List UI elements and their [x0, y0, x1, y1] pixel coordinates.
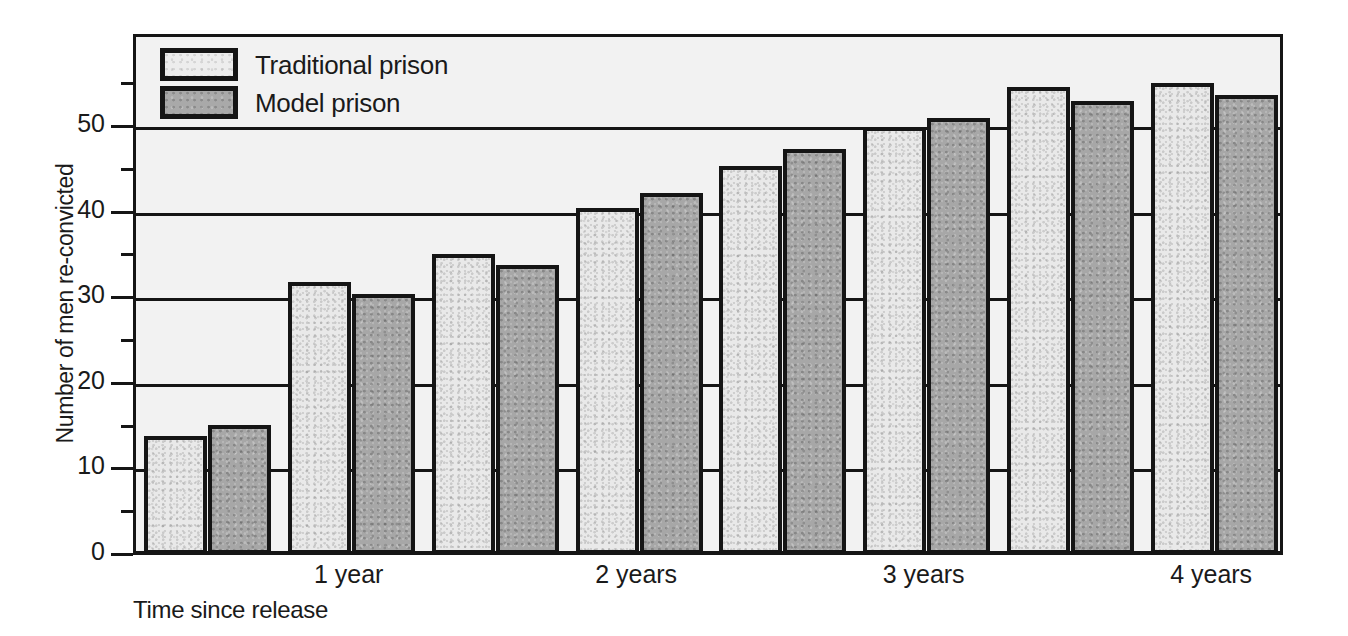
x-axis-tick-labels: 1 year2 years3 years4 years	[133, 558, 1283, 592]
bar-traditional-group-2	[288, 282, 351, 554]
y-tick-mark	[111, 296, 133, 299]
y-axis-tick-label-0: 0	[91, 536, 105, 566]
legend-item-model-prison: Model prison	[160, 86, 448, 119]
bar-chart-figure: Number of men re-convicted 01020304050 T…	[0, 0, 1348, 636]
bar-model-group-4	[640, 193, 703, 554]
y-tick-mark	[111, 467, 133, 470]
legend-label-traditional-prison: Traditional prison	[255, 50, 448, 80]
y-axis: 01020304050	[0, 0, 133, 636]
y-axis-tick-label-30: 30	[77, 279, 105, 309]
bar-model-group-5	[783, 149, 846, 554]
bar-traditional-group-5	[719, 166, 782, 554]
bar-traditional-group-1	[144, 436, 207, 554]
bar-model-group-3	[496, 265, 559, 554]
x-axis-tick-label-4-years: 4 years	[1170, 558, 1252, 590]
bar-model-group-1	[208, 425, 271, 554]
y-axis-tick-label-40: 40	[77, 194, 105, 224]
legend-label-model-prison: Model prison	[255, 88, 400, 118]
bar-traditional-group-3	[432, 254, 495, 554]
legend: Traditional prison Model prison	[160, 48, 448, 124]
bar-model-group-2	[352, 294, 415, 555]
y-tick-mark	[111, 125, 133, 128]
x-axis-tick-label-1-year: 1 year	[314, 558, 383, 590]
bar-model-group-7	[1071, 101, 1134, 554]
x-axis-tick-label-2-years: 2 years	[595, 558, 677, 590]
y-axis-tick-label-20: 20	[77, 365, 105, 395]
bar-model-group-6	[927, 118, 990, 554]
y-tick-mark	[111, 553, 133, 556]
y-axis-tick-label-10: 10	[77, 450, 105, 480]
bar-traditional-group-4	[576, 208, 639, 554]
legend-item-traditional-prison: Traditional prison	[160, 48, 448, 81]
bar-traditional-group-6	[863, 127, 926, 554]
y-tick-mark	[121, 339, 133, 342]
plot-area: Traditional prison Model prison	[133, 34, 1283, 555]
legend-swatch-traditional-prison	[160, 48, 238, 81]
bar-traditional-group-7	[1007, 87, 1070, 554]
y-tick-mark	[121, 168, 133, 171]
x-axis-title: Time since release	[133, 596, 328, 624]
bar-model-group-8	[1215, 95, 1278, 554]
legend-swatch-model-prison	[160, 86, 238, 119]
y-tick-mark	[121, 253, 133, 256]
y-tick-mark	[111, 382, 133, 385]
x-axis-tick-label-3-years: 3 years	[883, 558, 965, 590]
y-tick-mark	[121, 82, 133, 85]
y-tick-mark	[121, 510, 133, 513]
y-axis-tick-label-50: 50	[77, 108, 105, 138]
y-tick-mark	[111, 211, 133, 214]
bar-traditional-group-8	[1151, 83, 1214, 554]
y-tick-mark	[121, 425, 133, 428]
